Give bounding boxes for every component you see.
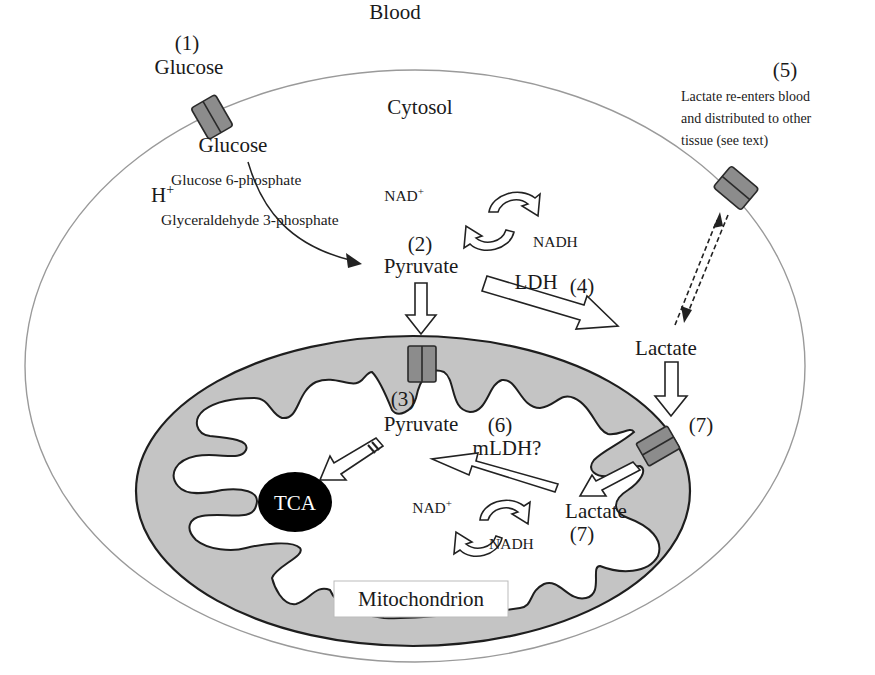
glyceraldehyde-3-phosphate-label: Glyceraldehyde 3-phosphate (161, 211, 339, 228)
step5-text-line-1: Lactate re-enters blood (681, 89, 810, 104)
lactate-mito-label: Lactate (565, 499, 627, 523)
mldh-enzyme-label: mLDH? (473, 436, 542, 460)
step7-outer-number: (7) (689, 413, 714, 437)
tca-label: TCA (274, 491, 317, 515)
ldh-enzyme-label: LDH (514, 270, 557, 294)
step3-number: (3) (391, 387, 416, 411)
pyruvate-mito-label: Pyruvate (384, 412, 459, 436)
step2-number: (2) (408, 232, 433, 256)
step5-text-line-3: tissue (see text) (681, 133, 768, 149)
lactate-cytosol-label: Lactate (635, 336, 697, 360)
step4-number: (4) (570, 274, 595, 298)
pyruvate-carrier-icon (408, 346, 436, 382)
lactate-to-mito-arrow (655, 362, 687, 416)
glucose-6-phosphate-label: Glucose 6-phosphate (171, 171, 302, 188)
cytosol-redox-cycle-icon (464, 192, 540, 250)
lactate-shuttle-diagram: Mitochondrion Blood Cytosol (1) Glucose … (0, 0, 875, 675)
glucose-cytosol-label: Glucose (199, 133, 268, 157)
cytosol-label: Cytosol (387, 95, 453, 119)
lactate-blood-transporter-icon (713, 166, 759, 211)
cytosol-nadh-label: NADH (533, 233, 578, 250)
lactate-efflux-arrowhead-icon (713, 212, 723, 228)
lactate-influx-dashed-arrow (687, 215, 728, 315)
glucose-blood-label: Glucose (155, 55, 224, 79)
proton-label: H+ (151, 182, 174, 207)
step5-number: (5) (773, 58, 798, 82)
cytosol-nad-label: NAD+ (384, 185, 424, 204)
step7-inner-number: (7) (570, 522, 595, 546)
pyruvate-import-arrow (406, 283, 436, 334)
proton-symbol: H (151, 183, 166, 207)
pyruvate-cytosol-label: Pyruvate (384, 254, 459, 278)
mito-nadh-label: NADH (489, 535, 534, 552)
step6-number: (6) (488, 413, 513, 437)
blood-label: Blood (369, 0, 421, 24)
lactate-efflux-dashed-arrow (675, 220, 717, 325)
step1-number: (1) (175, 31, 200, 55)
proton-charge: + (166, 182, 174, 197)
step5-text-line-2: and distributed to other (681, 111, 812, 126)
mitochondrion-label: Mitochondrion (358, 587, 484, 611)
glycolysis-arrowhead-icon (346, 253, 362, 268)
